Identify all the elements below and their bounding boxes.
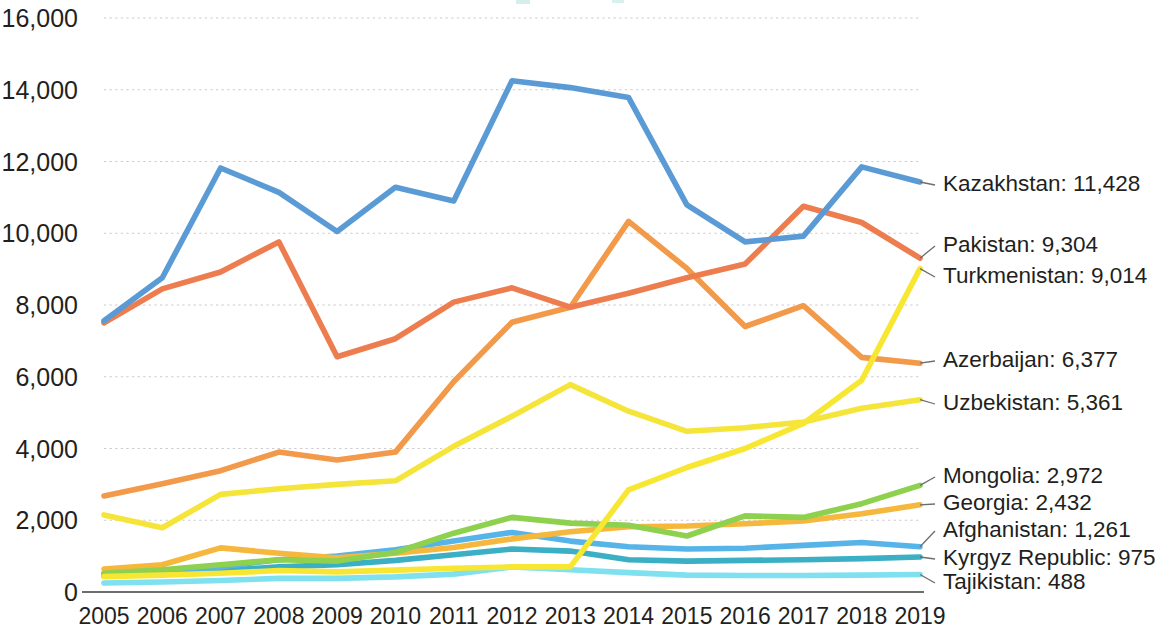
line-chart: 02,0004,0006,0008,00010,00012,00014,0001… — [0, 0, 1159, 634]
cropped-title-artifacts — [516, 0, 624, 4]
series-line — [104, 81, 920, 321]
series-line — [104, 385, 920, 528]
y-axis-tick-labels: 02,0004,0006,0008,00010,00012,00014,0001… — [2, 4, 78, 606]
y-tick-label: 12,000 — [2, 148, 78, 176]
y-tick-label: 8,000 — [15, 291, 78, 319]
label-leader-lines — [920, 182, 935, 583]
x-tick-label: 2007 — [195, 603, 246, 629]
leader-line — [920, 477, 935, 485]
x-tick-label: 2016 — [720, 603, 771, 629]
y-tick-label: 0 — [64, 578, 78, 606]
x-tick-label: 2012 — [486, 603, 537, 629]
x-tick-label: 2008 — [253, 603, 304, 629]
x-axis-tick-labels: 2005200620072008200920102011201220132014… — [78, 603, 945, 629]
x-tick-label: 2011 — [429, 603, 478, 629]
x-tick-label: 2010 — [370, 603, 421, 629]
series-end-label: Uzbekistan: 5,361 — [943, 390, 1123, 415]
x-tick-label: 2013 — [545, 603, 596, 629]
x-tick-label: 2005 — [78, 603, 129, 629]
x-tick-label: 2014 — [603, 603, 654, 629]
series-end-label: Kazakhstan: 11,428 — [943, 171, 1140, 196]
series-end-label: Mongolia: 2,972 — [943, 463, 1103, 488]
y-tick-label: 16,000 — [2, 4, 78, 32]
chart-canvas: 02,0004,0006,0008,00010,00012,00014,0001… — [0, 0, 1159, 634]
leader-line — [920, 400, 935, 404]
x-tick-label: 2009 — [312, 603, 363, 629]
leader-line — [920, 246, 935, 258]
y-tick-label: 10,000 — [2, 219, 78, 247]
series-end-label: Pakistan: 9,304 — [943, 232, 1098, 257]
series-end-label: Tajikistan: 488 — [943, 569, 1086, 594]
series-end-label: Azerbaijan: 6,377 — [943, 347, 1118, 372]
leader-line — [920, 575, 935, 584]
series-end-label: Georgia: 2,432 — [943, 490, 1092, 515]
y-tick-label: 2,000 — [15, 506, 78, 534]
data-lines — [104, 81, 920, 583]
x-tick-label: 2019 — [894, 603, 945, 629]
y-tick-label: 6,000 — [15, 363, 78, 391]
x-tick-label: 2006 — [137, 603, 188, 629]
leader-line — [920, 531, 935, 547]
series-line — [104, 221, 920, 496]
series-end-label: Kyrgyz Republic: 975 — [943, 545, 1156, 570]
y-tick-label: 4,000 — [15, 435, 78, 463]
series-end-label: Afghanistan: 1,261 — [943, 517, 1131, 542]
series-end-labels: Kazakhstan: 11,428Pakistan: 9,304Turkmen… — [943, 171, 1156, 594]
x-tick-label: 2017 — [778, 603, 829, 629]
leader-line — [920, 504, 935, 505]
x-tick-label: 2015 — [661, 603, 712, 629]
leader-line — [920, 269, 935, 277]
y-tick-label: 14,000 — [2, 76, 78, 104]
x-tick-label: 2018 — [836, 603, 887, 629]
series-line — [104, 206, 920, 356]
series-end-label: Turkmenistan: 9,014 — [943, 263, 1147, 288]
